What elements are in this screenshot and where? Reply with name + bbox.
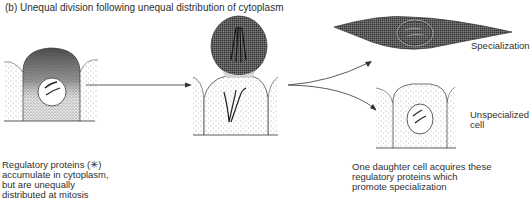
unspecialized-cell	[376, 84, 456, 148]
caption-line: promote specialization	[352, 182, 491, 192]
caption-line: distributed at mitosis	[2, 190, 109, 200]
caption-daughter-cell: One daughter cell acquires these regulat…	[352, 162, 491, 192]
dividing-cell	[193, 16, 278, 135]
label-specialization: Specialization	[471, 41, 530, 51]
caption-regulatory-proteins: Regulatory proteins (✳) accumulate in cy…	[2, 160, 109, 200]
branching-arrows	[288, 61, 377, 111]
interphase-cell	[4, 48, 98, 121]
arrow-to-mitosis	[86, 83, 192, 88]
label-line: cell	[470, 120, 529, 130]
label-unspecialized-cell: Unspecialized cell	[470, 110, 529, 130]
